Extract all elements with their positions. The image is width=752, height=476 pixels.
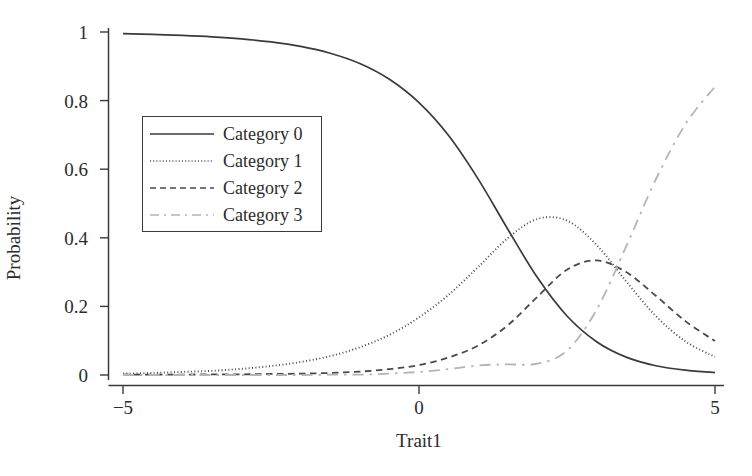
ytick-label-0.6: 0.6 bbox=[40, 160, 88, 179]
chart-legend: Category 0 Category 1 Category 2 bbox=[142, 116, 322, 232]
legend-item-category-0: Category 0 bbox=[149, 121, 315, 147]
ytick-label-0.4: 0.4 bbox=[40, 228, 88, 247]
legend-item-category-1: Category 1 bbox=[149, 148, 315, 174]
xtick-label-5: 5 bbox=[710, 398, 720, 417]
xtick-label-0: 0 bbox=[414, 398, 424, 417]
chart-figure: 1 0.8 0.6 0.4 0.2 0 −5 0 5 Probability T… bbox=[0, 0, 752, 476]
legend-label-category-0: Category 0 bbox=[223, 125, 302, 143]
legend-line-sample-solid bbox=[149, 127, 215, 141]
ytick-label-0.2: 0.2 bbox=[40, 297, 88, 316]
ytick-label-1: 1 bbox=[40, 23, 88, 42]
legend-line-sample-dotted bbox=[149, 154, 215, 168]
legend-label-category-1: Category 1 bbox=[223, 152, 302, 170]
legend-label-category-3: Category 3 bbox=[223, 206, 302, 224]
series-line-category-1 bbox=[123, 217, 715, 374]
legend-item-category-3: Category 3 bbox=[149, 202, 315, 228]
y-axis-label: Probability bbox=[3, 196, 25, 280]
legend-label-category-2: Category 2 bbox=[223, 179, 302, 197]
legend-line-sample-dashdot bbox=[149, 208, 215, 222]
ytick-label-0: 0 bbox=[40, 366, 88, 385]
x-axis-label: Trait1 bbox=[396, 430, 442, 452]
legend-line-sample-dashed bbox=[149, 181, 215, 195]
legend-item-category-2: Category 2 bbox=[149, 175, 315, 201]
xtick-label-minus5: −5 bbox=[113, 398, 133, 417]
ytick-label-0.8: 0.8 bbox=[40, 91, 88, 110]
